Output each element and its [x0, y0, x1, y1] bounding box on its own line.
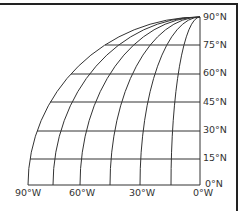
meridian-30w — [140, 17, 200, 185]
longitude-label-60w: 60°W — [69, 188, 95, 198]
latitude-label-15n: 15°N — [203, 153, 227, 163]
meridian-90w — [28, 17, 200, 185]
latitude-label-90n: 90°N — [203, 12, 227, 22]
longitude-label-30w: 30°W — [129, 188, 155, 198]
meridian-60w — [80, 17, 200, 185]
meridian-75w — [53, 17, 200, 185]
meridian-45w — [110, 17, 200, 185]
longitude-label-90w: 90°W — [15, 188, 41, 198]
latitude-label-75n: 75°N — [203, 40, 227, 50]
latitude-label-30n: 30°N — [203, 125, 227, 135]
latitude-label-45n: 45°N — [203, 97, 227, 107]
latitude-label-60n: 60°N — [203, 68, 227, 78]
longitude-label-0w: 0°W — [193, 188, 213, 198]
meridian-15w — [171, 17, 200, 185]
